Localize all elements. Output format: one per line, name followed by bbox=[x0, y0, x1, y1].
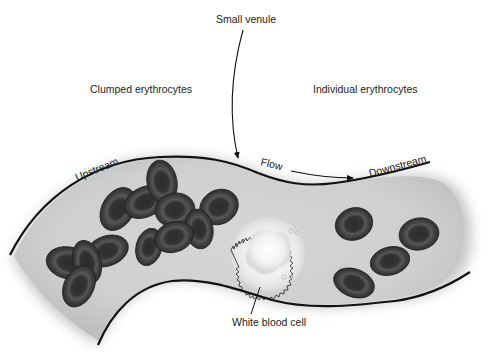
label-clumped-erythrocytes: Clumped erythrocytes bbox=[90, 83, 192, 95]
label-white-blood-cell: White blood cell bbox=[232, 316, 306, 328]
label-small-venule: Small venule bbox=[216, 13, 276, 25]
label-individual-erythrocytes: Individual erythrocytes bbox=[313, 83, 417, 95]
venule-diagram: Small venule Flow Upstream Downstream Cl… bbox=[0, 0, 492, 352]
label-flow: Flow bbox=[260, 155, 285, 172]
small-venule-pointer bbox=[232, 30, 243, 158]
flow-arrow bbox=[291, 171, 353, 178]
